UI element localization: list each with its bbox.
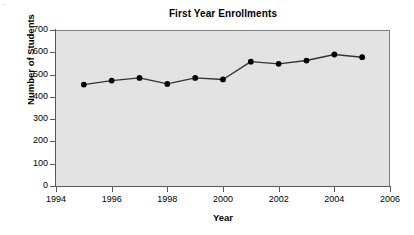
y-tick-label-wrap: 700 <box>0 25 48 34</box>
y-tick-mark <box>50 119 56 120</box>
x-tick-label: 2002 <box>259 194 299 204</box>
y-tick-label: 0 <box>4 181 48 190</box>
x-tick-label: 2000 <box>203 194 243 204</box>
x-tick-mark <box>167 186 168 192</box>
x-tick-mark <box>390 186 391 192</box>
x-tick-mark <box>56 186 57 192</box>
y-tick-mark <box>50 30 56 31</box>
x-tick-label: 1996 <box>92 194 132 204</box>
corner-artifact: .. <box>2 0 5 6</box>
plot-area <box>56 30 390 186</box>
x-tick-mark <box>334 186 335 192</box>
y-tick-label-wrap: 600 <box>0 47 48 56</box>
y-tick-label: 500 <box>4 70 48 79</box>
y-tick-label: 100 <box>4 159 48 168</box>
y-tick-label-wrap: 200 <box>0 136 48 145</box>
y-tick-label-wrap: 300 <box>0 114 48 123</box>
y-tick-mark <box>50 52 56 53</box>
x-tick-label: 1994 <box>36 194 76 204</box>
y-tick-mark <box>50 75 56 76</box>
x-tick-label: 1998 <box>147 194 187 204</box>
x-tick-mark <box>223 186 224 192</box>
y-tick-label-wrap: 0 <box>0 181 48 190</box>
y-tick-label: 700 <box>4 25 48 34</box>
y-tick-label: 600 <box>4 47 48 56</box>
chart-figure: .. First Year Enrollments Number of Stud… <box>0 0 414 235</box>
y-tick-label: 300 <box>4 114 48 123</box>
x-axis-title: Year <box>56 212 390 223</box>
chart-title: First Year Enrollments <box>56 8 390 19</box>
x-tick-mark <box>112 186 113 192</box>
y-tick-label: 200 <box>4 136 48 145</box>
y-tick-label-wrap: 400 <box>0 92 48 101</box>
y-tick-mark <box>50 97 56 98</box>
y-tick-label-wrap: 500 <box>0 70 48 79</box>
y-tick-label: 400 <box>4 92 48 101</box>
y-tick-mark <box>50 141 56 142</box>
y-tick-mark <box>50 164 56 165</box>
x-tick-mark <box>279 186 280 192</box>
x-tick-label: 2004 <box>314 194 354 204</box>
x-tick-label: 2006 <box>370 194 410 204</box>
y-tick-label-wrap: 100 <box>0 159 48 168</box>
